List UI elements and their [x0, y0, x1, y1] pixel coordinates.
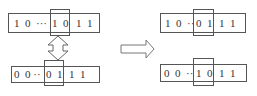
swap-double-arrow-icon: [48, 36, 68, 60]
right-arrow-icon: [121, 40, 154, 58]
arrows-layer: [0, 0, 257, 96]
